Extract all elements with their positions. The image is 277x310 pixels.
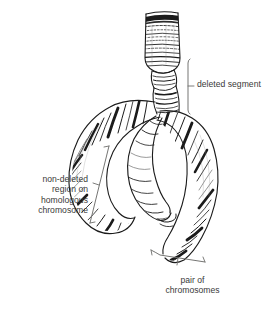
bracket-non-deleted-region [90, 146, 109, 223]
chromosome-drawing [0, 0, 277, 310]
label-deleted-segment: deleted segment [197, 79, 275, 89]
right-arm [155, 107, 218, 264]
neck-segment [149, 70, 179, 91]
label-non-deleted-region: non-deleted region on homologous chromos… [4, 174, 88, 216]
chromosome-ink [68, 12, 218, 265]
chromosome-deletion-figure: deleted segment non-deleted region on ho… [0, 0, 277, 310]
top-segment [144, 12, 181, 74]
label-pair-of-chromosomes: pair of chromosomes [140, 275, 245, 296]
deletion-loop [128, 116, 177, 227]
bracket-deleted-segment [188, 59, 194, 114]
